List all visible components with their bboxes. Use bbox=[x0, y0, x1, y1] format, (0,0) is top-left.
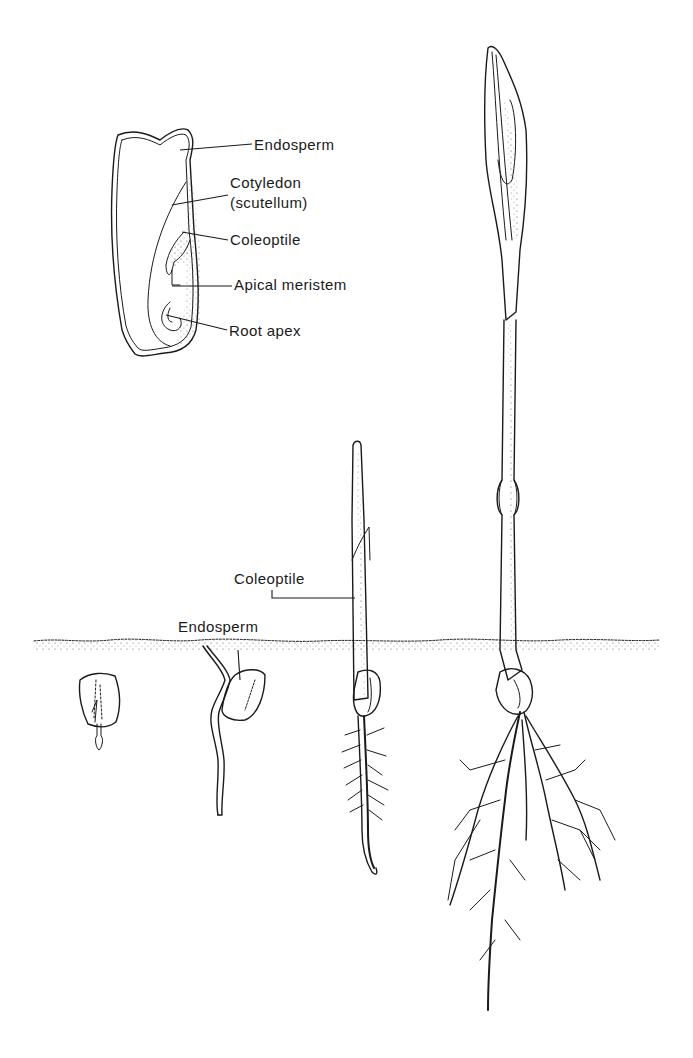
label-seedling-endosperm: Endosperm bbox=[178, 618, 258, 635]
soil-surface bbox=[34, 639, 659, 711]
label-kernel-root-apex: Root apex bbox=[229, 322, 301, 339]
stage-4-leafy-seedling bbox=[448, 47, 615, 1010]
label-kernel-cotyledon: Cotyledon bbox=[230, 174, 301, 191]
label-kernel-scutellum: (scutellum) bbox=[230, 194, 308, 211]
label-kernel-coleoptile: Coleoptile bbox=[230, 231, 301, 248]
label-seedling-coleoptile: Coleoptile bbox=[234, 570, 305, 587]
label-kernel-endosperm: Endosperm bbox=[254, 136, 334, 153]
label-kernel-apical-meristem: Apical meristem bbox=[234, 276, 347, 293]
germination-illustration bbox=[0, 0, 693, 1058]
